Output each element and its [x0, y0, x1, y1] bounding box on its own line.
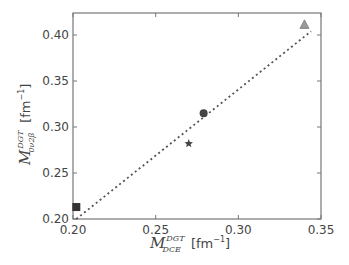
y-axis-label: MDGT0ν2β[fm−1] — [16, 84, 36, 166]
plot-frame — [73, 13, 321, 219]
y-tick-label: 0.25 — [42, 166, 69, 180]
y-tick-label: 0.20 — [42, 212, 69, 226]
plot-area — [72, 13, 321, 219]
y-tick-label: 0.40 — [42, 28, 69, 42]
fit-line — [76, 31, 311, 219]
chart: 0.200.250.300.35 0.200.250.300.350.40 MD… — [0, 0, 349, 265]
square-marker — [72, 203, 80, 211]
y-tick-label: 0.35 — [42, 74, 69, 88]
x-tick-label: 0.30 — [225, 223, 252, 237]
circle-marker — [200, 109, 208, 117]
x-axis-label: MDGTDCE[fm−1] — [149, 234, 230, 254]
triangle-marker — [300, 20, 309, 29]
y-tick-label: 0.30 — [42, 120, 69, 134]
star-marker — [185, 139, 194, 147]
x-tick-label: 0.35 — [308, 223, 335, 237]
y-axis-ticks: 0.200.250.300.350.40 — [42, 28, 69, 226]
x-axis-ticks: 0.200.250.300.35 — [60, 223, 335, 237]
